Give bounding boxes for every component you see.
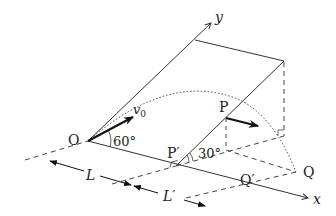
velocity-label: v0: [133, 102, 146, 119]
point-P-label: P: [219, 99, 228, 115]
point-Q-label: Q: [303, 164, 314, 180]
incline-angle-label: 30°: [198, 146, 221, 161]
x-axis-label: x: [313, 191, 321, 207]
y-axis: [88, 23, 211, 141]
Lprime-dim-left: [134, 186, 158, 193]
P-to-Q-dashed: [226, 150, 296, 172]
y-axis-label: y: [214, 9, 224, 25]
Pprime-baseline-dashed: [112, 166, 176, 184]
angle-60-arc: [108, 130, 111, 147]
point-Pprime-label: P′: [167, 145, 180, 161]
projectile-incline-diagram: y x O v0 60° 30° P P′ Q Q′ L L′: [0, 0, 336, 216]
velocity-at-P-arrow: [226, 118, 258, 126]
diagram-svg: y x O v0 60° 30° P P′ Q Q′ L L′: [0, 0, 336, 216]
angle-30-arc-inner: [187, 155, 189, 162]
point-Qprime-label: Q′: [240, 172, 255, 188]
L-dim-left: [50, 161, 84, 171]
L-dim-right: [100, 176, 131, 185]
L-label: L: [85, 167, 95, 183]
origin-label: O: [68, 132, 79, 148]
Lprime-dim-right: [184, 200, 205, 206]
Lprime-label: L′: [162, 188, 176, 204]
launch-angle-label: 60°: [113, 134, 136, 149]
plane-slope-edge: [176, 61, 284, 166]
angle-30-arc: [190, 153, 193, 161]
right-angle-mark-corner: [278, 130, 284, 136]
plane-top-edge: [195, 40, 284, 61]
trajectory: [88, 91, 296, 172]
